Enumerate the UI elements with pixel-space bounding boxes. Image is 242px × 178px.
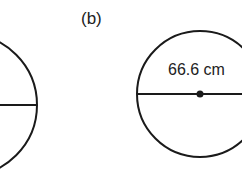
diagram-canvas xyxy=(0,0,242,178)
diameter-label: 66.6 cm xyxy=(168,61,225,79)
part-label: (b) xyxy=(81,9,102,29)
circle-b-center-dot xyxy=(197,91,204,98)
